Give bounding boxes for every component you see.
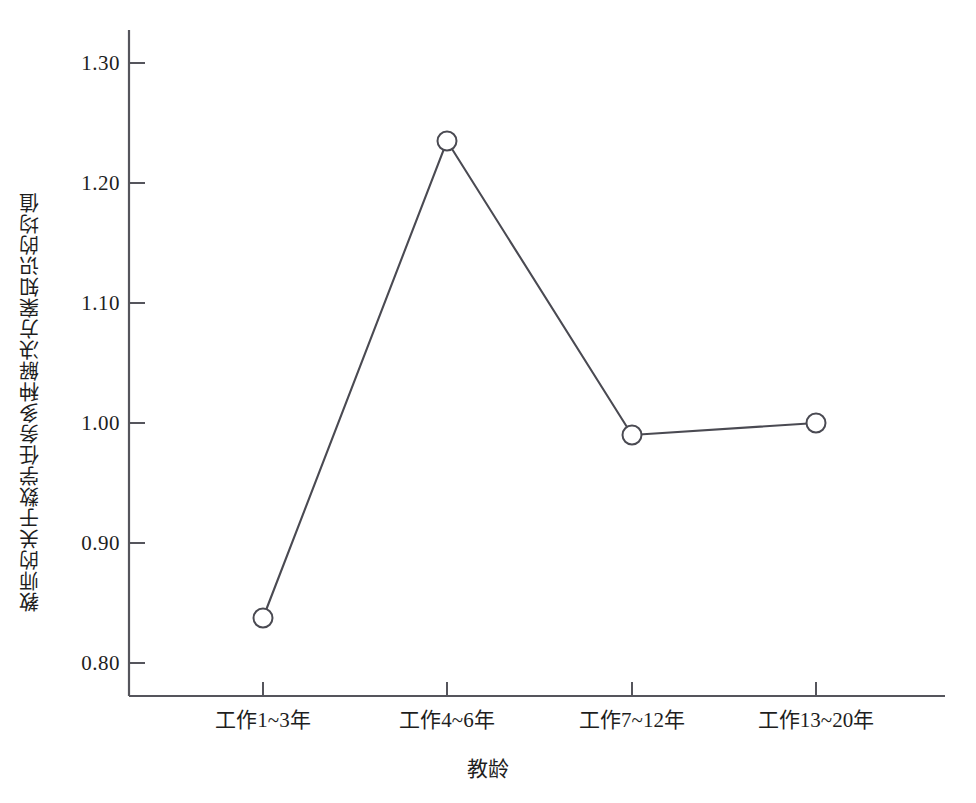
y-tick-label: 0.80 — [48, 651, 120, 676]
x-tick-label-2: 工作4~6年 — [399, 703, 494, 733]
y-tick-label: 1.00 — [48, 411, 120, 436]
chart-container: 1.30 1.20 1.10 1.00 0.90 0.80 工作1~3年 工作4… — [0, 0, 976, 803]
data-point-2 — [438, 132, 457, 151]
x-tick-label-1: 工作1~3年 — [215, 703, 310, 733]
y-tick-label: 1.20 — [48, 171, 120, 196]
y-tick-label: 0.90 — [48, 531, 120, 556]
data-point-1 — [254, 609, 273, 628]
chart-plot-area — [0, 0, 976, 803]
data-point-4 — [807, 414, 826, 433]
data-point-markers — [254, 132, 826, 628]
y-axis-title: 教师的关于数学任务多种解决方案知识的均值 — [12, 0, 46, 803]
y-tick-label: 1.30 — [48, 51, 120, 76]
data-line — [263, 141, 816, 618]
data-point-3 — [623, 426, 642, 445]
y-axis-ticks — [129, 63, 145, 663]
x-tick-label-3: 工作7~12年 — [579, 703, 685, 733]
y-tick-label: 1.10 — [48, 291, 120, 316]
y-axis-title-text: 教师的关于数学任务多种解决方案知识的均值 — [15, 192, 44, 612]
x-tick-label-4: 工作13~20年 — [758, 703, 874, 733]
x-axis-ticks — [263, 682, 816, 696]
x-axis-title: 教龄 — [0, 752, 976, 782]
